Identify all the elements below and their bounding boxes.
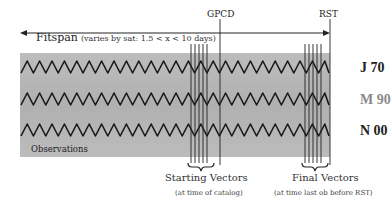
observations-label: Observations	[31, 144, 88, 154]
rst-label: RST	[319, 9, 338, 19]
final-vectors-title: Final Vectors	[292, 172, 359, 183]
starting-vectors-subtitle: (at time of catalog)	[175, 189, 243, 197]
fitspan-title: Fitspan	[36, 31, 78, 44]
fitspan-label: Fitspan (varies by sat: 1.5 < x < 10 day…	[36, 31, 216, 44]
starting-vectors-title: Starting Vectors	[165, 172, 248, 183]
final-brace-icon	[302, 163, 328, 171]
arrow-left-icon	[20, 30, 27, 36]
starting-brace-icon	[188, 163, 214, 171]
arrow-right-icon	[323, 30, 330, 36]
final-vectors-subtitle: (at time last ob before RST)	[274, 189, 373, 197]
fitspan-range: (varies by sat: 1.5 < x < 10 days)	[81, 34, 216, 43]
gpcd-label: GPCD	[207, 9, 234, 19]
row-label-m90: M 90	[360, 92, 391, 108]
row-label-j70: J 70	[360, 60, 385, 76]
row-label-n00: N 00	[360, 123, 388, 139]
